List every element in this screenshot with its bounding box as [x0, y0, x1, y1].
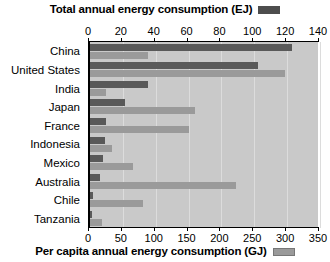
bar-per-capita — [90, 200, 143, 207]
axis-tick-label: 100 — [145, 232, 163, 244]
axis-tick-label: 40 — [148, 25, 160, 37]
category-label: Tanzania — [34, 212, 80, 225]
bar-group — [90, 135, 318, 154]
axis-tick — [88, 227, 89, 231]
category-label: Japan — [49, 101, 80, 114]
bar-total — [90, 118, 106, 125]
bar-per-capita — [90, 52, 148, 59]
axis-tick-label: 60 — [180, 25, 192, 37]
axis-tick — [318, 38, 319, 42]
category-label: China — [50, 45, 80, 58]
bar-total — [90, 137, 105, 144]
axis-tick-label: 20 — [115, 25, 127, 37]
plot-area — [88, 42, 318, 228]
axis-tick-label: 200 — [210, 232, 228, 244]
axis-tick-label: 250 — [243, 232, 261, 244]
bar-group — [90, 98, 318, 117]
bottom-legend: Per capita annual energy consumption (GJ… — [0, 244, 330, 259]
axis-tick-label: 140 — [309, 25, 327, 37]
category-label: Indonesia — [30, 138, 80, 151]
axis-tick — [285, 227, 286, 231]
axis-tick-label: 0 — [85, 232, 91, 244]
axis-tick-label: 350 — [309, 232, 327, 244]
category-axis-labels: ChinaUnited StatesIndiaJapanFranceIndone… — [0, 42, 84, 228]
axis-tick — [154, 227, 155, 231]
axis-tick-label: 300 — [276, 232, 294, 244]
bar-group — [90, 116, 318, 135]
bar-per-capita — [90, 107, 195, 114]
axis-tick-label: 80 — [213, 25, 225, 37]
category-label: Australia — [35, 175, 80, 188]
axis-tick-label: 0 — [85, 25, 91, 37]
axis-tick-label: 150 — [177, 232, 195, 244]
bar-per-capita — [90, 163, 133, 170]
bar-total — [90, 44, 292, 51]
bar-group — [90, 172, 318, 191]
bar-per-capita — [90, 89, 106, 96]
axis-tick-label: 120 — [276, 25, 294, 37]
axis-tick — [252, 227, 253, 231]
bar-total — [90, 211, 92, 218]
bar-group — [90, 61, 318, 80]
top-legend-label: Total annual energy consumption (EJ) — [50, 3, 253, 16]
bar-group — [90, 154, 318, 173]
category-label: Chile — [54, 194, 80, 207]
bottom-legend-label: Per capita annual energy consumption (GJ… — [35, 245, 267, 258]
percapita-legend-swatch — [273, 248, 295, 256]
axis-tick — [121, 227, 122, 231]
bar-total — [90, 192, 93, 199]
bar-group — [90, 42, 318, 61]
category-label: United States — [11, 63, 80, 76]
bar-group — [90, 79, 318, 98]
axis-tick — [219, 227, 220, 231]
category-label: Mexico — [44, 156, 80, 169]
bar-per-capita — [90, 70, 285, 77]
axis-tick-label: 50 — [115, 232, 127, 244]
axis-tick-label: 100 — [243, 25, 261, 37]
bar-per-capita — [90, 126, 189, 133]
bar-group — [90, 191, 318, 210]
category-label: France — [44, 119, 80, 132]
bar-total — [90, 81, 148, 88]
energy-consumption-chart: Total annual energy consumption (EJ) 020… — [0, 0, 330, 262]
bar-per-capita — [90, 182, 236, 189]
bar-total — [90, 99, 125, 106]
bar-total — [90, 62, 258, 69]
bar-total — [90, 155, 103, 162]
total-legend-swatch — [258, 6, 280, 14]
category-label: India — [55, 82, 80, 95]
bottom-axis-line — [88, 227, 318, 228]
top-legend: Total annual energy consumption (EJ) — [0, 2, 330, 17]
bottom-axis: 050100150200250300350 — [88, 227, 318, 241]
bar-per-capita — [90, 219, 102, 226]
axis-tick — [318, 227, 319, 231]
bar-per-capita — [90, 145, 112, 152]
bar-group — [90, 209, 318, 228]
top-axis: 020406080100120140 — [88, 28, 318, 42]
bar-total — [90, 174, 100, 181]
axis-tick — [187, 227, 188, 231]
gridline — [320, 42, 321, 228]
